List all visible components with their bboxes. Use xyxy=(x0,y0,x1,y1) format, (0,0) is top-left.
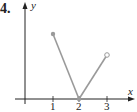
x-tick-label-3: 3 xyxy=(104,100,110,112)
open-point-3-2 xyxy=(105,53,110,58)
y-axis-arrow-icon xyxy=(23,2,28,9)
x-axis-arrow-icon xyxy=(128,97,135,102)
y-axis-label: y xyxy=(31,0,36,11)
segment-1 xyxy=(53,34,79,99)
x-tick-label-1: 1 xyxy=(50,100,56,112)
function-graph xyxy=(0,0,137,112)
closed-point-1-3 xyxy=(51,32,55,36)
x-axis-label: x xyxy=(128,85,133,97)
x-tick-label-2: 2 xyxy=(76,100,82,112)
segment-2 xyxy=(79,55,107,99)
